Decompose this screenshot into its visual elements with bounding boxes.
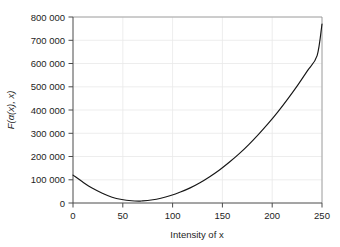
- y-tick-label: 800 000: [31, 12, 65, 23]
- y-tick-label: 400 000: [31, 105, 65, 116]
- y-tick-label: 700 000: [31, 35, 65, 46]
- y-tick-label: 500 000: [31, 81, 65, 92]
- x-tick-label: 200: [264, 210, 280, 221]
- y-tick-label: 600 000: [31, 58, 65, 69]
- x-axis-title: Intensity of x: [170, 229, 224, 240]
- y-tick-label: 200 000: [31, 151, 65, 162]
- x-tick-label: 50: [118, 210, 129, 221]
- y-tick-labels: 800 000 700 000 600 000 500 000 400 000 …: [31, 12, 65, 209]
- y-tick-label: 300 000: [31, 128, 65, 139]
- y-tick-label: 0: [60, 198, 65, 209]
- y-axis-title: F(α(x), x): [5, 91, 16, 130]
- x-tick-label: 150: [214, 210, 230, 221]
- y-tick-label: 100 000: [31, 174, 65, 185]
- x-tick-label: 250: [314, 210, 330, 221]
- x-tick-label: 100: [165, 210, 181, 221]
- chart-canvas: 800 000 700 000 600 000 500 000 400 000 …: [0, 0, 340, 247]
- x-tick-label: 0: [70, 210, 75, 221]
- chart-figure: 800 000 700 000 600 000 500 000 400 000 …: [0, 0, 340, 247]
